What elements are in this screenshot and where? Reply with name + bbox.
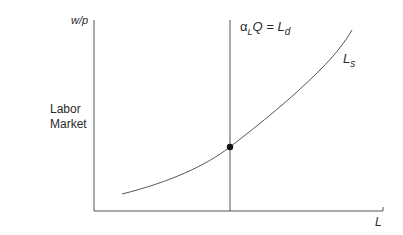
alpha-symbol: α bbox=[240, 19, 248, 34]
demand-label: αLQ = Ld bbox=[240, 19, 290, 37]
supply-label: Ls bbox=[343, 51, 355, 69]
side-label: Labor Market bbox=[50, 102, 87, 132]
x-axis-label: L bbox=[375, 215, 382, 229]
y-axis-label: w/p bbox=[71, 14, 88, 26]
equilibrium-point bbox=[227, 144, 233, 150]
demand-sub-d: d bbox=[285, 26, 291, 37]
supply-sub-s: s bbox=[350, 58, 355, 69]
labor-supply-curve bbox=[122, 30, 352, 194]
demand-mid: Q = L bbox=[253, 19, 285, 34]
side-label-line2: Market bbox=[50, 117, 87, 132]
side-label-line1: Labor bbox=[50, 102, 87, 117]
